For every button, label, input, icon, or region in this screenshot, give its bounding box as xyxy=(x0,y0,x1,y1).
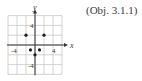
axes xyxy=(7,10,68,76)
x-axis-label: x xyxy=(69,41,74,50)
coordinate-graph: xy-444-4 xyxy=(0,0,80,81)
graph-canvas: xy-444-4 xyxy=(0,0,80,81)
data-point xyxy=(29,48,32,51)
objective-caption: (Obj. 3.1.1) xyxy=(86,4,137,16)
data-point xyxy=(38,48,41,51)
x-tick-label: 4 xyxy=(52,47,56,55)
x-tick-label: -4 xyxy=(11,47,17,55)
x-axis-arrow-icon xyxy=(64,43,68,47)
data-point xyxy=(24,34,27,37)
y-tick-label: 4 xyxy=(30,22,34,30)
y-axis-label: y xyxy=(32,3,37,12)
tick-labels: xy-444-4 xyxy=(11,3,74,70)
data-point xyxy=(42,34,45,37)
y-tick-label: -4 xyxy=(28,62,34,70)
data-point xyxy=(33,53,36,56)
